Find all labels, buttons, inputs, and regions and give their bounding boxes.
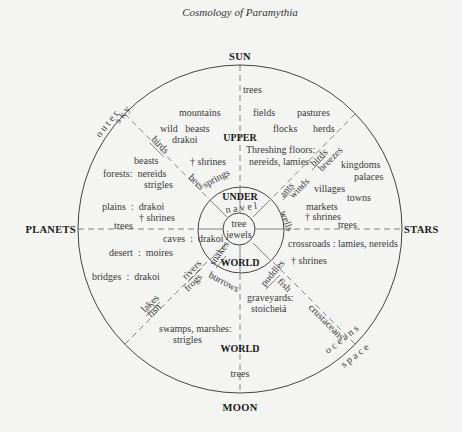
region-graveyards-1: graveyards:: [247, 292, 294, 303]
region-kingdoms: kingdoms: [341, 159, 381, 170]
region-top-trees: trees: [243, 84, 262, 95]
region-bridges: bridges : drakoi: [92, 271, 160, 282]
region-drakoi-upper: drakoi: [172, 134, 198, 145]
region-mountains: mountains: [179, 107, 221, 118]
region-forests-1: forests: nereids: [103, 168, 166, 179]
region-forests-2: strigles: [144, 179, 173, 190]
region-threshing-1: Threshing floors:: [246, 144, 315, 155]
region-shrines-west: † shrines: [139, 212, 175, 223]
region-threshing-2: nereids, lamies: [249, 156, 309, 167]
realm-world-outer: WORLD: [221, 343, 260, 354]
realm-upper: UPPER: [223, 132, 257, 143]
region-crossroads: crossroads : lamies, nereids: [288, 238, 398, 249]
region-shrines-se: † shrines: [291, 255, 327, 266]
region-wild-beasts: wild beasts: [160, 123, 210, 134]
diagram-title: Cosmology of Paramythia: [182, 6, 298, 18]
direction-moon: MOON: [222, 402, 257, 413]
region-palaces: palaces: [354, 171, 384, 182]
region-trees-east: trees: [338, 219, 357, 230]
region-graveyards-2: stoicheiá: [251, 303, 287, 314]
region-swamps-1: swamps, marshes:: [159, 323, 232, 334]
region-fields: fields: [253, 107, 275, 118]
direction-stars: STARS: [404, 224, 439, 235]
region-towns: towns: [347, 192, 371, 203]
center-jewels: jewels: [225, 229, 252, 240]
center-tree: tree: [232, 218, 248, 229]
region-pastures: pastures: [297, 107, 330, 118]
region-bottom-trees: trees: [231, 368, 250, 379]
region-trees-west: trees: [114, 220, 133, 231]
direction-planets: PLANETS: [25, 224, 76, 235]
region-flocks: flocks: [273, 123, 298, 134]
region-shrines-nw: † shrines: [190, 156, 226, 167]
region-swamps-2: strigles: [173, 334, 202, 345]
region-beasts: beasts: [134, 155, 159, 166]
region-herds: herds: [313, 123, 335, 134]
region-plains: plains : drakoi: [102, 201, 164, 212]
region-desert: desert : moires: [109, 247, 173, 258]
region-villages: villages: [314, 183, 345, 194]
region-caves: caves : drakoi: [163, 233, 224, 244]
cosmology-diagram: Cosmology of Paramythia SUN MOON PLANETS…: [0, 0, 462, 432]
realm-world-inner: WORLD: [221, 257, 260, 268]
direction-sun: SUN: [229, 51, 251, 62]
region-shrines-east: † shrines: [305, 211, 341, 222]
